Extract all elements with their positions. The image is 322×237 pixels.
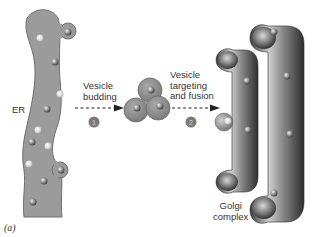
step-2-label: Vesicle targeting and fusion	[170, 70, 214, 102]
step-2-marker: 2	[186, 117, 197, 128]
er-membrane	[23, 10, 76, 217]
transport-vesicles	[124, 78, 170, 122]
golgi-label: Golgi complex	[213, 201, 248, 222]
svg-text:1: 1	[92, 119, 96, 126]
step-1-label: Vesicle budding	[83, 81, 117, 102]
step-2-label-line3: and fusion	[170, 91, 214, 102]
arrow-vesicle-targeting	[172, 105, 220, 112]
er-label: ER	[12, 105, 25, 116]
arrow-vesicle-budding	[75, 105, 124, 112]
fusing-vesicle	[215, 113, 233, 131]
step-2-label-line1: Vesicle	[170, 70, 214, 81]
golgi-label-line1: Golgi	[213, 201, 248, 212]
diagram-canvas: 1 2	[0, 0, 322, 237]
step-1-label-line1: Vesicle	[83, 81, 117, 92]
step-1-label-line2: budding	[83, 92, 117, 103]
step-1-marker: 1	[89, 117, 100, 128]
figure-caption: (a)	[4, 222, 16, 233]
svg-text:2: 2	[189, 119, 193, 126]
golgi-label-line2: complex	[213, 212, 248, 223]
